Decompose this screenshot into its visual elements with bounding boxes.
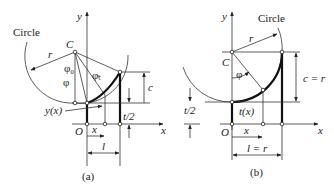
svg-text:φ: φ	[63, 76, 69, 88]
svg-text:O: O	[221, 126, 229, 138]
svg-text:y: y	[221, 10, 227, 22]
svg-text:C: C	[222, 56, 230, 68]
svg-text:φₜ: φₜ	[92, 69, 101, 81]
panel-b: Circle r C φ c = r t/2 t(x) O x l = r x …	[183, 10, 326, 179]
svg-text:t/2: t/2	[123, 110, 135, 122]
svg-text:l: l	[102, 140, 105, 152]
svg-text:x: x	[317, 124, 323, 136]
svg-text:r: r	[249, 32, 254, 44]
diagram-canvas: Circle r C φ₀ φ φₜ c t/2 y(x) O x l x y …	[0, 0, 334, 185]
svg-text:φ₀: φ₀	[64, 62, 74, 74]
svg-text:c = r: c = r	[303, 72, 326, 84]
svg-text:x: x	[160, 124, 166, 136]
svg-text:l = r: l = r	[247, 142, 268, 154]
svg-text:x: x	[91, 123, 97, 135]
svg-text:y(x): y(x)	[44, 104, 62, 117]
panel-a: Circle r C φ₀ φ φₜ c t/2 y(x) O x l x y …	[13, 10, 166, 183]
svg-text:t(x): t(x)	[239, 105, 255, 118]
svg-text:C: C	[66, 38, 74, 50]
circle-arc-b	[183, 28, 282, 102]
circle-label-a: Circle	[13, 26, 40, 38]
svg-text:x: x	[243, 124, 249, 136]
svg-text:c: c	[148, 81, 153, 93]
radius-arrow-b	[232, 34, 277, 52]
svg-text:y: y	[76, 10, 82, 22]
caption-b: (b)	[250, 166, 263, 179]
svg-text:φ: φ	[236, 68, 242, 80]
svg-text:t/2: t/2	[184, 104, 196, 116]
svg-text:O: O	[75, 125, 83, 137]
caption-a: (a)	[82, 170, 95, 183]
circle-label-b: Circle	[258, 12, 285, 24]
svg-text:r: r	[48, 48, 53, 60]
